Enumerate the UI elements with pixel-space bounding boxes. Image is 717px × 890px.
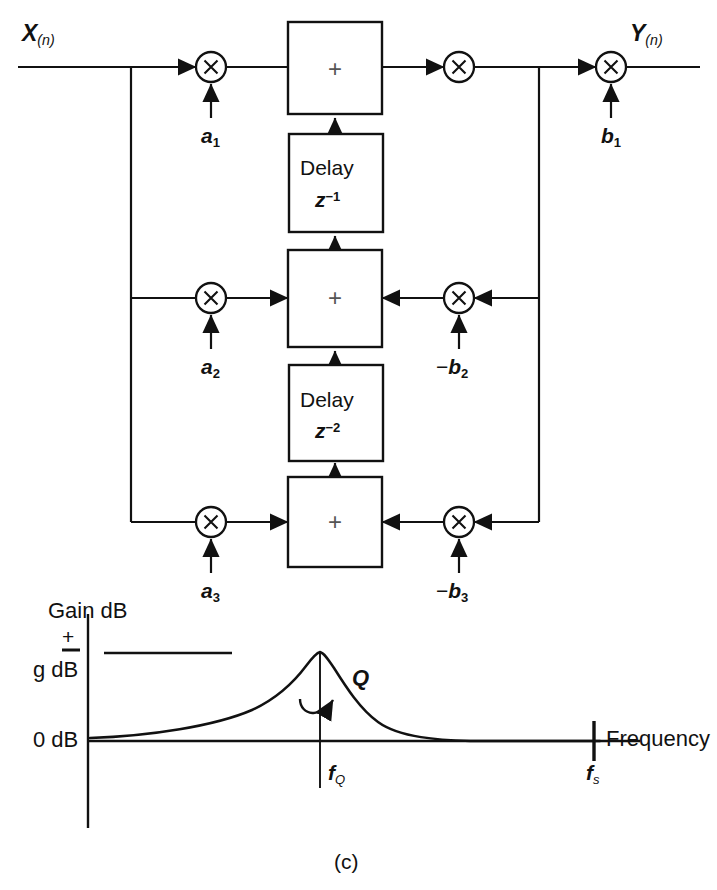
eq-response-curve	[90, 652, 600, 741]
coefficient-b2-label: −b2	[436, 356, 468, 380]
input-signal-label: X(n)	[22, 22, 55, 47]
coefficient-a3-label: a3	[201, 580, 220, 604]
delay-box-1-transform: z−1	[315, 189, 340, 210]
plot-x-tick-fs: fs	[586, 762, 600, 786]
delay-box-1-title: Delay	[300, 157, 354, 178]
q-curved-arrow	[300, 699, 333, 713]
plot-x-tick-fq: fQ	[328, 762, 345, 786]
plot-y-tick-g-db: g dB	[33, 659, 78, 681]
delay-box-2-title: Delay	[300, 389, 354, 410]
figure-caption: (c)	[334, 851, 359, 872]
coefficient-a1-label: a1	[201, 125, 220, 149]
q-annotation-label: Q	[352, 667, 369, 689]
figure-root: X(n) Y(n) + + + Delay z−1 Delay z−2 a1 b…	[0, 0, 717, 890]
plot-y-tick-0-db: 0 dB	[33, 729, 78, 751]
delay-box-2-transform: z−2	[315, 420, 340, 441]
delay-box-2	[289, 365, 383, 461]
adder-symbol-1: +	[328, 57, 342, 81]
delay-box-1	[289, 134, 383, 232]
plot-x-axis-title: Frequency	[606, 728, 710, 750]
multiplier-crosses	[205, 61, 618, 529]
plot-plus-sign: +	[62, 626, 74, 647]
output-signal-label: Y(n)	[630, 22, 663, 47]
adder-symbol-3: +	[328, 510, 342, 534]
coefficient-b1-label: b1	[601, 125, 621, 149]
coefficient-b3-label: −b3	[436, 580, 468, 604]
plot-y-axis-title: Gain dB	[48, 600, 128, 622]
response-plot	[62, 614, 640, 828]
multiplier-nodes	[196, 52, 626, 537]
coefficient-a2-label: a2	[201, 356, 220, 380]
adder-symbol-2: +	[328, 286, 342, 310]
